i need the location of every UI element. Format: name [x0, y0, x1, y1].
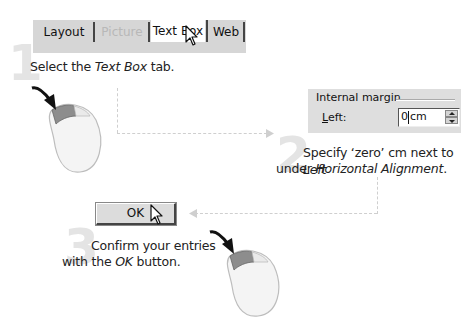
- text-caret: [408, 111, 409, 124]
- group-divider: [396, 99, 455, 101]
- left-label: Left:: [322, 111, 346, 124]
- step-3-caption-line-1: Confirm your entries: [91, 237, 216, 254]
- left-margin-value: 0cm: [401, 110, 427, 123]
- connector-line-1-horizontal: [117, 133, 267, 134]
- tab-separator: [206, 20, 208, 42]
- mouse-left-click-icon: [208, 228, 288, 317]
- connector-line-1-vertical: [117, 88, 118, 133]
- connector-arrowhead-1: [266, 129, 274, 138]
- internal-margin-group: Internal margin Left: 0cm: [308, 89, 461, 133]
- tab-layout[interactable]: Layout: [35, 22, 95, 42]
- spin-down-button[interactable]: [445, 117, 458, 124]
- step-2-caption-line-2: under Horizontal Alignment.: [276, 160, 447, 177]
- connector-line-2-vertical: [377, 177, 378, 214]
- tab-strip: Layout Picture Text Box Web: [33, 20, 246, 53]
- mouse-left-click-icon: [30, 82, 110, 177]
- connector-arrowhead-2: [189, 209, 197, 218]
- arrow-cursor-icon: [185, 25, 199, 47]
- ok-button[interactable]: OK: [96, 203, 176, 225]
- left-margin-input[interactable]: 0cm: [398, 108, 460, 127]
- connector-line-2-horizontal: [195, 213, 377, 214]
- internal-margin-title: Internal margin: [316, 91, 401, 104]
- tab-picture: Picture: [96, 22, 150, 42]
- arrow-cursor-icon: [150, 204, 164, 226]
- tab-web[interactable]: Web: [209, 22, 245, 42]
- left-margin-spinner[interactable]: [445, 110, 458, 125]
- spin-up-button[interactable]: [445, 110, 458, 117]
- step-1-caption: Select the Text Box tab.: [30, 58, 174, 75]
- step-3-caption-line-2: with the OK button.: [62, 253, 180, 270]
